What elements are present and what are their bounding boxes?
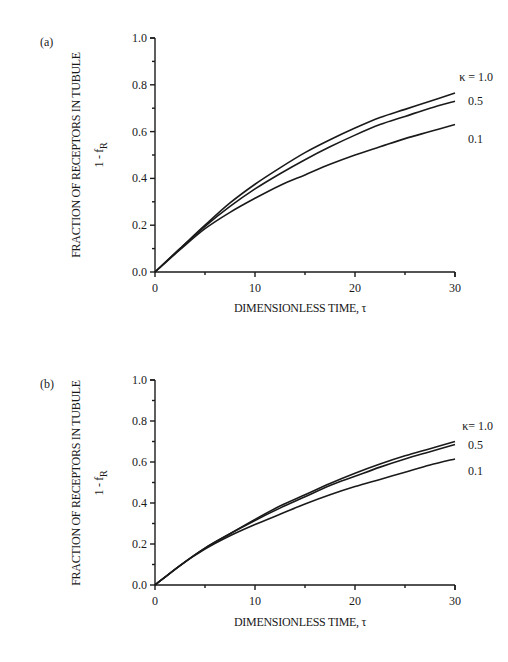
panel-label: (b) xyxy=(40,377,54,391)
y-symbol-main: 1 - f xyxy=(92,477,106,496)
y-tick-label: 0.4 xyxy=(132,496,147,510)
series-label: 0.1 xyxy=(468,464,483,478)
series-line-2 xyxy=(155,125,455,272)
series-label: κ = 1.0 xyxy=(459,70,493,84)
figure: (a)0.00.20.40.60.81.00102030DIMENSIONLES… xyxy=(0,0,508,662)
x-tick-label: 20 xyxy=(349,281,361,295)
chart-panel-a: (a)0.00.20.40.60.81.00102030DIMENSIONLES… xyxy=(40,31,493,315)
y-axis-title: FRACTION OF RECEPTORS IN TUBULE xyxy=(69,380,83,586)
x-tick-label: 30 xyxy=(449,281,461,295)
x-tick-label: 0 xyxy=(152,594,158,608)
y-tick-label: 1.0 xyxy=(132,373,147,387)
y-axis-symbol: 1 - fR xyxy=(92,142,109,168)
y-symbol-subscript: R xyxy=(98,470,109,477)
y-tick-label: 0.8 xyxy=(132,414,147,428)
x-tick-label: 30 xyxy=(449,594,461,608)
y-symbol-subscript: R xyxy=(98,142,109,149)
x-tick-label: 10 xyxy=(249,594,261,608)
series-label: 0.5 xyxy=(468,438,483,452)
series-label: κ= 1.0 xyxy=(462,419,493,433)
y-tick-label: 0.4 xyxy=(132,171,147,185)
chart-panel-b: (b)0.00.20.40.60.81.00102030DIMENSIONLES… xyxy=(40,373,493,629)
y-tick-label: 0.2 xyxy=(132,537,147,551)
x-axis-title: DIMENSIONLESS TIME, τ xyxy=(234,615,366,629)
panel-label: (a) xyxy=(40,35,53,49)
y-tick-label: 0.6 xyxy=(132,125,147,139)
y-tick-label: 0.8 xyxy=(132,78,147,92)
y-tick-label: 0.2 xyxy=(132,218,147,232)
y-axis-title: FRACTION OF RECEPTORS IN TUBULE xyxy=(69,52,83,258)
y-tick-label: 0.0 xyxy=(132,265,147,279)
series-line-1 xyxy=(155,101,455,272)
y-axis-symbol: 1 - fR xyxy=(92,470,109,496)
y-symbol-main: 1 - f xyxy=(92,149,106,168)
x-axis-title: DIMENSIONLESS TIME, τ xyxy=(234,301,366,315)
series-line-2 xyxy=(155,459,455,585)
y-tick-label: 0.0 xyxy=(132,578,147,592)
series-line-0 xyxy=(155,93,455,272)
series-line-0 xyxy=(155,442,455,586)
x-tick-label: 0 xyxy=(152,281,158,295)
x-tick-label: 20 xyxy=(349,594,361,608)
y-tick-label: 0.6 xyxy=(132,455,147,469)
x-tick-label: 10 xyxy=(249,281,261,295)
series-label: 0.1 xyxy=(468,132,483,146)
y-tick-label: 1.0 xyxy=(132,31,147,45)
series-line-1 xyxy=(155,445,455,585)
series-label: 0.5 xyxy=(468,94,483,108)
